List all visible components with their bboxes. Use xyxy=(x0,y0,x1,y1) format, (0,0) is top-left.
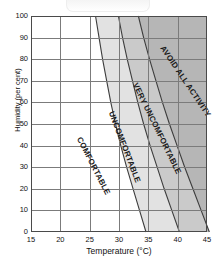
x-tick-label: 15 xyxy=(18,236,44,244)
y-tick-label: 80 xyxy=(2,55,28,63)
y-tick-label: 40 xyxy=(2,142,28,150)
y-tick-label: 0 xyxy=(2,228,28,236)
x-tick-label: 35 xyxy=(135,236,161,244)
y-tick-label: 60 xyxy=(2,98,28,106)
x-tick-label: 30 xyxy=(106,236,132,244)
y-tick-label: 50 xyxy=(2,120,28,128)
gridline-vertical xyxy=(60,16,61,232)
x-axis-title: Temperature (°C) xyxy=(31,247,207,256)
y-tick-label: 20 xyxy=(2,185,28,193)
y-tick-label: 30 xyxy=(2,163,28,171)
gridline-vertical xyxy=(178,16,179,232)
x-tick-label: 40 xyxy=(165,236,191,244)
y-tick-label: 10 xyxy=(2,206,28,214)
gridline-vertical xyxy=(90,16,91,232)
page-artifact-shape xyxy=(66,0,150,12)
y-axis-tick-labels: 0102030405060708090100 xyxy=(0,16,28,232)
humidity-temperature-comfort-chart: Humidity (per cent) 01020304050607080901… xyxy=(0,0,214,259)
plot-area: COMFORTABLEUNCOMFORTABLEVERY UNCOMFORTAB… xyxy=(31,16,207,232)
x-tick-label: 45 xyxy=(194,236,214,244)
x-axis-tick-labels: 15202530354045 xyxy=(31,236,207,246)
y-tick-label: 90 xyxy=(2,34,28,42)
x-tick-label: 25 xyxy=(77,236,103,244)
x-tick-label: 20 xyxy=(47,236,73,244)
y-tick-label: 70 xyxy=(2,77,28,85)
y-tick-label: 100 xyxy=(2,12,28,20)
